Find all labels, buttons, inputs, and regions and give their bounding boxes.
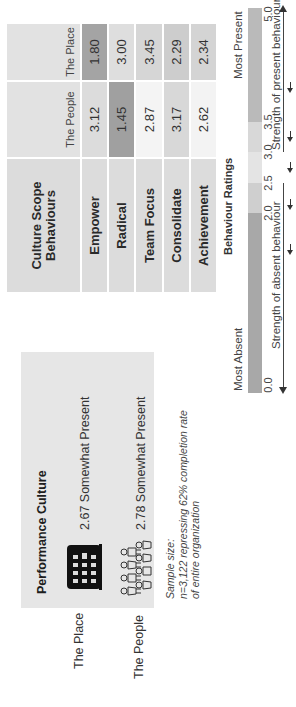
left-arrow-icon: [279, 387, 287, 394]
marker-arrow-icon: [287, 248, 293, 255]
performance-culture-box: Performance Culture 2.67 Somewhat Presen…: [21, 352, 154, 608]
building-icon: [65, 544, 107, 590]
column-header-place: The Place: [7, 24, 80, 80]
cell-radical-people: 1.45: [109, 82, 134, 157]
corner-line-1: Culture Scope: [30, 181, 44, 269]
column-header-people: The People: [7, 82, 80, 157]
cell-radical-place: 3.00: [109, 24, 134, 80]
present-axis-line: [283, 12, 284, 152]
most-present-label: Most Present: [232, 11, 244, 79]
legend-title: Behaviour Ratings: [222, 158, 234, 255]
sample-line-3: of entire organization: [189, 410, 202, 599]
sample-line-1: Sample size:: [164, 410, 177, 599]
cell-team-focus-place: 3.45: [136, 24, 162, 80]
corner-line-2: Behaviours: [44, 181, 58, 269]
people-icon: [119, 536, 159, 598]
cell-achievement-people: 2.62: [191, 82, 216, 157]
cell-team-focus-people: 2.87: [136, 82, 162, 157]
people-score: 2.78 Somewhat Present: [134, 397, 148, 530]
sample-line-2: n=3,122 repressing 62% completion rate: [177, 410, 190, 599]
rotated-figure: The Place The People Performance Culture…: [0, 0, 296, 707]
row-label-achievement: Achievement: [191, 159, 216, 292]
cell-achievement-place: 2.34: [191, 24, 216, 80]
tick-2.5: 2.5: [262, 175, 274, 190]
right-arrow-icon: [279, 5, 287, 12]
row-label-people: The People: [132, 615, 146, 679]
scale-segment-2.5-3: [248, 152, 262, 183]
place-score: 2.67 Somewhat Present: [78, 397, 92, 530]
tick-0: 0.0: [262, 377, 274, 392]
row-label-team-focus: Team Focus: [136, 159, 162, 292]
performance-title: Performance Culture: [35, 470, 49, 594]
present-axis-label: Strength of present behaviour: [270, 0, 282, 150]
marker-arrow-icon: [287, 135, 293, 142]
marker-arrow-icon: [287, 203, 293, 210]
absent-axis-label: Strength of absent behaviour: [270, 201, 282, 349]
scale-segment-2-2.5: [248, 183, 262, 213]
cell-consolidate-place: 2.29: [164, 24, 189, 80]
cell-empower-people: 3.12: [82, 82, 107, 157]
table-corner-header: Culture Scope Behaviours: [7, 159, 80, 292]
row-label-radical: Radical: [109, 159, 134, 292]
sample-size-note: Sample size: n=3,122 repressing 62% comp…: [164, 410, 202, 599]
cell-empower-place: 1.80: [82, 24, 107, 80]
row-label-consolidate: Consolidate: [164, 159, 189, 292]
scale-segment-3.5-5: [248, 8, 262, 122]
marker-arrow-icon: [287, 86, 293, 93]
cell-consolidate-people: 3.17: [164, 82, 189, 157]
scale-segment-3-3.5: [248, 122, 262, 152]
marker-arrow-icon: [287, 166, 293, 173]
absent-axis-line: [283, 183, 284, 389]
row-label-empower: Empower: [82, 159, 107, 292]
scale-segment-0-2: [248, 213, 262, 393]
most-absent-label: Most Absent: [232, 328, 244, 391]
row-label-place: The Place: [72, 613, 86, 669]
